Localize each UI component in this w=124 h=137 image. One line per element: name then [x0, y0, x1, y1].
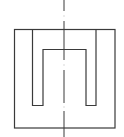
technical-drawing: [0, 0, 124, 137]
background: [0, 0, 124, 137]
